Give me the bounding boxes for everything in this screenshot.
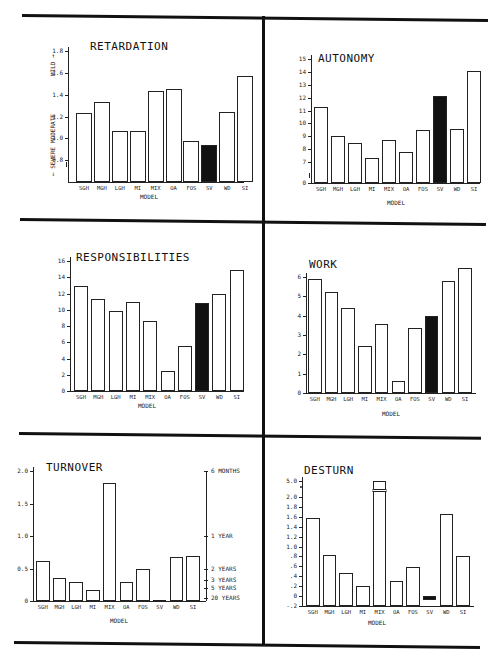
category-label: WD bbox=[167, 604, 185, 610]
right-y-tick bbox=[204, 580, 208, 581]
y-tick bbox=[299, 566, 303, 567]
y-tick bbox=[303, 374, 307, 375]
y-tick-label: 1.6 bbox=[273, 513, 297, 520]
y-tick-label: 1.0 bbox=[4, 532, 28, 539]
bar-mgh bbox=[91, 299, 105, 391]
bar-si bbox=[458, 268, 472, 393]
y-tick-label: 5 bbox=[277, 292, 301, 299]
y-axis bbox=[306, 273, 307, 393]
category-label: MGH bbox=[320, 609, 338, 615]
bar-fos bbox=[136, 569, 150, 601]
bar-mix bbox=[375, 324, 389, 393]
category-label: WD bbox=[448, 186, 466, 192]
y-tick-label: 6 bbox=[277, 273, 301, 280]
y-tick bbox=[67, 359, 71, 360]
category-label: SV bbox=[423, 396, 441, 402]
y-tick bbox=[65, 160, 69, 161]
y-tick bbox=[303, 277, 307, 278]
bar-sgh bbox=[306, 518, 320, 606]
y-tick-label: 4 bbox=[41, 355, 65, 362]
frame-row2-divider bbox=[19, 432, 481, 440]
category-label: OA bbox=[397, 186, 415, 192]
category-label: LGH bbox=[339, 396, 357, 402]
y-tick bbox=[65, 117, 69, 118]
y-tick bbox=[67, 277, 71, 278]
y-tick bbox=[30, 536, 34, 537]
bar-si bbox=[230, 270, 244, 391]
y-tick bbox=[65, 95, 69, 96]
bar-fos bbox=[416, 130, 430, 183]
y-tick bbox=[303, 335, 307, 336]
y-tick bbox=[67, 375, 71, 376]
right-y-tick bbox=[204, 569, 208, 570]
y-tick-label: .6 bbox=[273, 562, 297, 569]
category-label: SI bbox=[228, 394, 246, 400]
category-label: SGH bbox=[304, 609, 322, 615]
y-tick bbox=[308, 136, 312, 137]
y-tick-label: 1.8 bbox=[39, 47, 63, 54]
bar-oa bbox=[390, 581, 404, 606]
bar-mi bbox=[356, 586, 370, 606]
category-label: WD bbox=[437, 609, 455, 615]
y-tick-label: 0 bbox=[41, 387, 65, 394]
y-tick-label: 1.0 bbox=[273, 543, 297, 550]
category-label: MI bbox=[356, 396, 374, 402]
bar-mgh bbox=[331, 136, 345, 183]
y-tick bbox=[308, 72, 312, 73]
y-tick bbox=[299, 556, 303, 557]
y-axis bbox=[68, 47, 69, 182]
category-label: OA bbox=[159, 394, 177, 400]
category-label: OA bbox=[117, 604, 135, 610]
category-label: SGH bbox=[72, 394, 90, 400]
y-tick-label: 1 bbox=[277, 370, 301, 377]
chart-title: TURNOVER bbox=[46, 461, 103, 474]
bar-sv bbox=[195, 303, 209, 391]
category-label: LGH bbox=[111, 185, 129, 191]
frame-top-border bbox=[22, 14, 488, 22]
y-tick bbox=[299, 537, 303, 538]
bar-wd bbox=[440, 514, 454, 606]
y-tick bbox=[65, 138, 69, 139]
bar-mi bbox=[126, 302, 140, 391]
bar-mi bbox=[86, 590, 100, 601]
y-tick bbox=[67, 342, 71, 343]
right-y-tick-label: 5 YEARS bbox=[211, 584, 236, 591]
bar-sv bbox=[153, 600, 167, 602]
y-tick-label: 10 bbox=[41, 306, 65, 313]
bar-fos bbox=[178, 346, 192, 391]
category-label: OA bbox=[389, 396, 407, 402]
y-tick-label: 0 bbox=[273, 592, 297, 599]
axis-break-mark bbox=[66, 162, 67, 167]
category-label: SV bbox=[151, 604, 169, 610]
right-y-tick bbox=[204, 598, 208, 599]
y-tick bbox=[30, 471, 34, 472]
category-label: FOS bbox=[134, 604, 152, 610]
y-tick-label: 2.0 bbox=[4, 467, 28, 474]
y-tick bbox=[65, 51, 69, 52]
y-tick-label: 0 bbox=[277, 389, 301, 396]
bar-mi bbox=[365, 158, 379, 183]
y-tick-label: 2.0 bbox=[273, 493, 297, 500]
y-tick-label: 14 bbox=[41, 273, 65, 280]
bar-mgh bbox=[53, 578, 67, 601]
bar-mgh bbox=[323, 555, 337, 606]
bar-si bbox=[186, 556, 200, 602]
y-tick bbox=[67, 326, 71, 327]
bar-oa bbox=[161, 371, 175, 391]
category-label: SV bbox=[200, 185, 218, 191]
bar-mix bbox=[148, 91, 164, 182]
category-label: MIX bbox=[147, 185, 165, 191]
y-tick-label: 9 bbox=[282, 132, 306, 139]
y-tick-label: 0 bbox=[4, 597, 28, 604]
y-tick-label: 1.2 bbox=[273, 533, 297, 540]
y-tick bbox=[67, 261, 71, 262]
bar-si bbox=[467, 71, 481, 183]
category-label: MGH bbox=[93, 185, 111, 191]
bar-mgh bbox=[94, 102, 110, 182]
y-tick bbox=[30, 601, 34, 602]
category-label: SI bbox=[465, 186, 483, 192]
bar-sv bbox=[423, 596, 437, 600]
bar-mi bbox=[358, 346, 372, 393]
category-label: SGH bbox=[306, 396, 324, 402]
y-tick-label: 3 bbox=[277, 331, 301, 338]
